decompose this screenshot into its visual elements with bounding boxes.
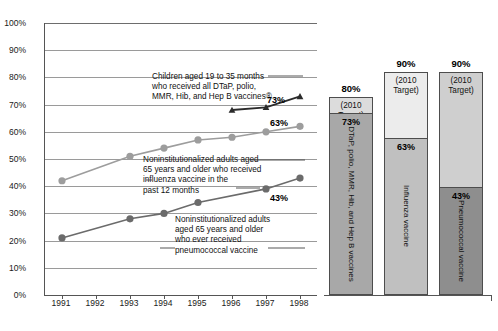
line-chart-panel: 0%10%20%30%40%50%60%70%80%90%100% 199119… bbox=[0, 0, 322, 310]
data-label-pneumococcal: 43% bbox=[270, 193, 288, 203]
target-bar-panel: 80%(2010Target)73%DTaP, polio, MMR, Hib,… bbox=[324, 0, 498, 310]
bar-target-caption-line: (2010 bbox=[330, 101, 372, 111]
chart-figure: 0%10%20%30%40%50%60%70%80%90%100% 199119… bbox=[0, 0, 498, 331]
bar-target-caption-line: (2010 bbox=[440, 76, 482, 86]
bar-body-2: (2010Target)63%Influenza vaccine bbox=[384, 72, 428, 295]
bar-body-3: (2010Target)43%Pneumococcal vaccine bbox=[439, 72, 483, 295]
bar-target-label-1: 80% bbox=[329, 83, 373, 94]
bar-target-caption-2: (2010Target) bbox=[385, 76, 427, 96]
bar-vertical-label-2: Influenza vaccine bbox=[402, 185, 411, 247]
data-label-children: 73% bbox=[267, 95, 285, 105]
bar-target-caption-line: Target) bbox=[440, 86, 482, 96]
bar-target-label-2: 90% bbox=[384, 58, 428, 69]
bar-panel-baseline-tick bbox=[491, 295, 492, 301]
bar-target-label-3: 90% bbox=[439, 58, 483, 69]
bar-fill-3: 43%Pneumococcal vaccine bbox=[440, 187, 482, 294]
target-bar-3[interactable]: 90%(2010Target)43%Pneumococcal vaccine bbox=[439, 72, 483, 295]
data-label-influenza: 63% bbox=[270, 118, 288, 128]
bar-target-caption-line: (2010 bbox=[385, 76, 427, 86]
figure-caption bbox=[26, 318, 326, 331]
bar-fill-2: 63%Influenza vaccine bbox=[385, 138, 427, 294]
bar-vertical-label-3: Pneumococcal vaccine bbox=[457, 200, 466, 282]
bar-target-caption-line: Target) bbox=[385, 86, 427, 96]
bar-vertical-label-1: DTaP, polio, MMR, Hib, and Hep B vaccine… bbox=[347, 126, 356, 281]
bar-value-label-2: 63% bbox=[385, 142, 427, 152]
annotation-leader-lines bbox=[0, 0, 322, 310]
bar-fill-1: 73%DTaP, polio, MMR, Hib, and Hep B vacc… bbox=[330, 113, 372, 294]
target-bar-1[interactable]: 80%(2010Target)73%DTaP, polio, MMR, Hib,… bbox=[329, 97, 373, 295]
target-bar-2[interactable]: 90%(2010Target)63%Influenza vaccine bbox=[384, 72, 428, 295]
bar-panel-baseline bbox=[324, 295, 492, 296]
bar-target-caption-3: (2010Target) bbox=[440, 76, 482, 96]
bar-body-1: (2010Target)73%DTaP, polio, MMR, Hib, an… bbox=[329, 97, 373, 295]
